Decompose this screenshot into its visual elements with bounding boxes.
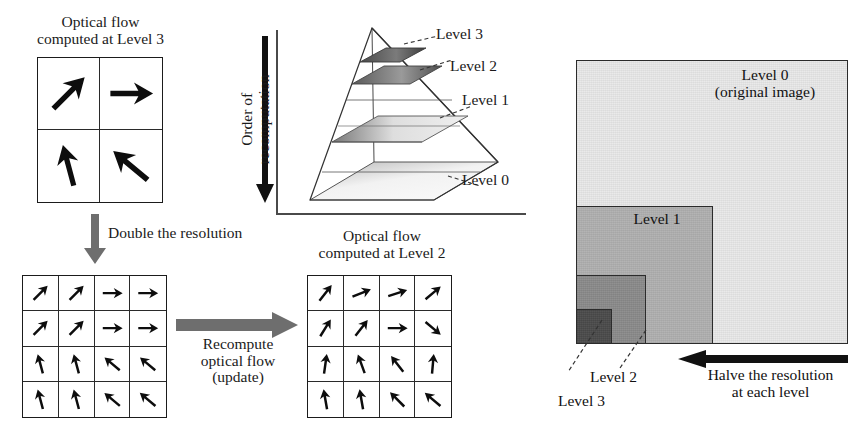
flow-arrow-icon [308, 347, 343, 381]
flow-arrow-icon [344, 382, 379, 417]
level-2-flow-grid[interactable] [307, 275, 452, 418]
flow-cell[interactable] [23, 311, 59, 346]
flow-cell[interactable] [308, 276, 344, 311]
flow-cell[interactable] [23, 347, 59, 382]
flow-arrow-icon [100, 130, 162, 202]
flow-arrow-icon [59, 382, 94, 417]
flow-arrow-icon [380, 382, 415, 417]
flow-cell[interactable] [344, 311, 380, 346]
flow-cell[interactable] [100, 130, 162, 202]
flow-arrow-icon [130, 311, 166, 345]
level-1-label: Level 1 [612, 210, 702, 227]
flow-cell[interactable] [95, 276, 131, 311]
flow-arrow-icon [415, 347, 451, 381]
flow-arrow-icon [95, 347, 130, 381]
recomputation-axis-horizontal [276, 213, 526, 215]
flow-arrow-icon [23, 382, 58, 417]
flow-arrow-icon [23, 311, 58, 345]
flow-cell[interactable] [380, 347, 416, 382]
level-3-label: Level 3 [558, 392, 650, 409]
flow-arrow-icon [130, 276, 166, 310]
flow-arrow-icon [23, 276, 58, 310]
level-0-label: Level 0 (original image) [690, 66, 840, 101]
flow-cell[interactable] [344, 382, 380, 417]
level-3-caption: Optical flow computed at Level 3 [18, 14, 183, 47]
pyramid-level-3-label: Level 3 [436, 26, 526, 43]
flow-arrow-icon [100, 58, 162, 129]
flow-arrow-icon [130, 382, 166, 417]
flow-arrow-icon [308, 311, 343, 345]
flow-arrow-icon [130, 347, 166, 381]
pyramid-level-2-label: Level 2 [450, 58, 540, 75]
flow-cell[interactable] [415, 347, 451, 382]
recompute-label: Recompute optical flow (update) [178, 336, 298, 386]
flow-cell[interactable] [130, 347, 166, 382]
flow-cell[interactable] [59, 311, 95, 346]
flow-arrow-icon [23, 347, 58, 381]
flow-cell[interactable] [38, 130, 100, 202]
upsampled-flow-grid[interactable] [22, 275, 167, 418]
flow-arrow-icon [308, 276, 343, 310]
flow-arrow-icon [59, 347, 94, 381]
flow-arrow-icon [38, 58, 99, 129]
order-of-recomputation-label: Order of recomputation [238, 24, 273, 214]
flow-arrow-icon [95, 311, 130, 345]
flow-arrow-icon [344, 276, 379, 310]
level-2-label: Level 2 [590, 368, 682, 385]
flow-cell[interactable] [415, 276, 451, 311]
flow-arrow-icon [344, 347, 379, 381]
flow-cell[interactable] [130, 382, 166, 417]
flow-arrow-icon [59, 276, 94, 310]
level-2-caption: Optical flow computed at Level 2 [296, 228, 468, 261]
flow-arrow-icon [95, 276, 130, 310]
level-3-flow-grid[interactable] [37, 57, 163, 203]
flow-arrow-icon [380, 276, 415, 310]
pyramid-level-1-label: Level 1 [462, 92, 552, 109]
flow-cell[interactable] [380, 276, 416, 311]
flow-cell[interactable] [308, 311, 344, 346]
flow-cell[interactable] [95, 347, 131, 382]
flow-cell[interactable] [415, 382, 451, 417]
flow-arrow-icon [415, 311, 451, 345]
flow-cell[interactable] [130, 276, 166, 311]
flow-arrow-icon [344, 311, 379, 345]
flow-cell[interactable] [308, 347, 344, 382]
flow-cell[interactable] [38, 58, 100, 130]
flow-cell[interactable] [130, 311, 166, 346]
double-resolution-arrow-icon [78, 214, 112, 266]
flow-arrow-icon [415, 276, 451, 310]
flow-cell[interactable] [95, 311, 131, 346]
flow-cell[interactable] [100, 58, 162, 130]
halve-resolution-label: Halve the resolution at each level [688, 366, 853, 401]
flow-arrow-icon [380, 347, 415, 381]
pyramid-level-0-label: Level 0 [462, 172, 552, 189]
flow-arrow-icon [95, 382, 130, 417]
flow-cell[interactable] [380, 311, 416, 346]
flow-cell[interactable] [415, 311, 451, 346]
flow-arrow-icon [38, 130, 99, 202]
flow-cell[interactable] [59, 382, 95, 417]
flow-cell[interactable] [23, 382, 59, 417]
flow-cell[interactable] [59, 276, 95, 311]
flow-cell[interactable] [95, 382, 131, 417]
flow-arrow-icon [380, 311, 415, 345]
flow-arrow-icon [308, 382, 343, 417]
flow-cell[interactable] [308, 382, 344, 417]
flow-cell[interactable] [344, 347, 380, 382]
flow-cell[interactable] [59, 347, 95, 382]
flow-cell[interactable] [380, 382, 416, 417]
flow-cell[interactable] [23, 276, 59, 311]
flow-arrow-icon [415, 382, 451, 417]
flow-arrow-icon [59, 311, 94, 345]
double-resolution-label: Double the resolution [108, 225, 288, 242]
flow-cell[interactable] [344, 276, 380, 311]
